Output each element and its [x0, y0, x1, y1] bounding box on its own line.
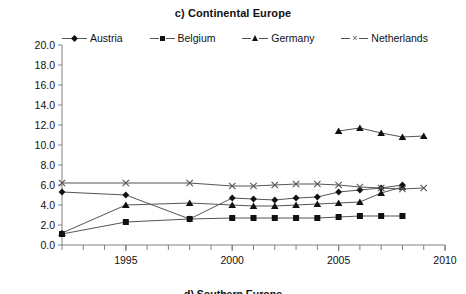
y-tick-label: 0.0	[40, 239, 55, 251]
data-point-square	[123, 219, 129, 225]
data-point-diamond	[59, 189, 66, 196]
data-point-diamond	[335, 189, 342, 196]
data-point-square	[229, 215, 235, 221]
data-point-square	[314, 215, 320, 221]
x-tick-label: 2005	[327, 254, 351, 266]
series-belgium	[59, 213, 405, 237]
data-point-diamond	[293, 195, 300, 202]
y-tick-label: 6.0	[40, 179, 55, 191]
x-tick-label: 2010	[433, 254, 457, 266]
data-point-square	[251, 215, 257, 221]
y-tick-label: 10.0	[35, 139, 56, 151]
y-tick-label: 12.0	[35, 119, 56, 131]
data-point-square	[399, 213, 405, 219]
data-point-square	[336, 214, 342, 220]
data-point-square	[187, 216, 193, 222]
y-tick-label: 2.0	[40, 219, 55, 231]
series-line	[62, 183, 424, 189]
y-tick-label: 20.0	[35, 39, 56, 51]
series-netherlands	[59, 180, 427, 192]
data-point-diamond	[229, 195, 236, 202]
data-point-square	[272, 215, 278, 221]
data-point-square	[293, 215, 299, 221]
data-point-diamond	[314, 194, 321, 201]
data-point-diamond	[250, 196, 257, 203]
data-point-square	[378, 213, 384, 219]
series-germany	[58, 183, 406, 236]
bottom-caption: d) Southern Europe	[0, 288, 466, 294]
chart-container: c) Continental Europe Austria Belgium Ge…	[0, 0, 466, 294]
plot-area: 0.02.04.06.08.010.012.014.016.018.020.01…	[0, 0, 466, 294]
data-point-triangle	[356, 124, 364, 131]
y-tick-label: 16.0	[35, 79, 56, 91]
y-tick-label: 18.0	[35, 59, 56, 71]
data-point-diamond	[122, 192, 129, 199]
x-tick-label: 1995	[114, 254, 138, 266]
data-point-diamond	[271, 197, 278, 204]
x-tick-label: 2000	[221, 254, 245, 266]
y-tick-label: 4.0	[40, 199, 55, 211]
y-tick-label: 8.0	[40, 159, 55, 171]
y-tick-label: 14.0	[35, 99, 56, 111]
series-germany-upper-	[335, 124, 428, 140]
data-point-square	[357, 213, 363, 219]
